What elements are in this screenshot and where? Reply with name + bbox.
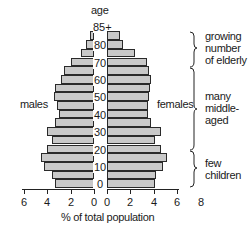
brace-icons [188,28,202,190]
male-bar [55,84,94,93]
x-tick-label: 4 [147,196,161,208]
age-tick-label: 10 [93,162,107,173]
y-axis-title: age [91,4,108,16]
male-bar [71,58,94,67]
female-bar [107,171,156,180]
male-bar [55,118,94,127]
x-tick [177,189,178,194]
female-bar [107,49,135,58]
female-bar [107,145,161,154]
annotation-elderly: growing number of elderly [205,30,247,66]
male-bar [41,153,94,162]
male-bar [59,110,94,119]
annotation-children: few children [205,157,241,181]
female-bar [107,84,150,93]
female-bar [107,136,155,145]
x-tick [130,189,131,194]
female-bar [107,118,151,127]
male-bar [44,162,94,171]
male-bar [52,136,94,145]
males-label: males [20,98,48,110]
age-tick-label: 40 [93,110,107,121]
x-tick-label: 0 [100,196,114,208]
female-bar [107,127,161,136]
x-tick-label: 6 [17,196,31,208]
x-tick-label: 6 [170,196,184,208]
female-bar [107,110,148,119]
female-bar [107,92,149,101]
x-tick [47,189,48,194]
age-tick-label: 70 [93,58,107,69]
x-tick [107,189,108,194]
age-tick-label: 20 [93,145,107,156]
x-tick-label: 4 [40,196,54,208]
male-bar [54,92,94,101]
female-bar [107,58,147,67]
male-bar [47,145,94,154]
age-tick-label: 80 [93,40,107,51]
male-bar [52,171,94,180]
female-bar [107,153,167,162]
x-tick [24,189,25,194]
male-bar [47,127,94,136]
female-bar [107,40,123,49]
age-tick-label: 60 [93,75,107,86]
x-tick-label: 8 [194,196,208,208]
female-bar [107,101,148,110]
female-bar [107,75,151,84]
x-tick [94,189,95,194]
age-tick-label: 30 [93,127,107,138]
x-axis-left [22,189,94,190]
male-bar [61,75,94,84]
female-bar [107,162,163,171]
age-tick-label: 85+ [93,22,107,33]
x-tick-label: 2 [64,196,78,208]
male-bar [57,101,94,110]
x-tick-label: 2 [123,196,137,208]
x-axis-title: % of total population [61,211,154,223]
female-bar [107,66,149,75]
x-tick-label: 0 [87,196,101,208]
age-tick-label: 0 [93,179,107,190]
x-axis-right [107,189,179,190]
male-bar [64,66,94,75]
female-bar [107,179,155,188]
x-tick [154,189,155,194]
x-tick [71,189,72,194]
male-bar [55,179,94,188]
age-tick-label: 50 [93,92,107,103]
annotation-middle-aged: many middle- aged [205,90,239,126]
